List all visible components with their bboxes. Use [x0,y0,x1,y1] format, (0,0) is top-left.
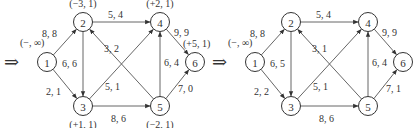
node-mark-1: (−, ∞) [20,37,44,49]
node-label: 3 [288,101,294,113]
node-3: 3 [282,97,301,116]
edge-label-3-4: 5, 1 [313,81,328,92]
edge-label-5-2: 3, 2 [104,43,119,54]
node-4: 4(+2, 1) [146,0,173,32]
node-5: 5 [359,97,378,116]
edge-label-5-4: 6, 4 [164,57,179,68]
edge-label-2-4: 5, 4 [316,9,331,20]
node-1: 1(−, ∞) [228,37,265,72]
node-6: 6 [394,53,413,72]
node-label: 1 [44,57,50,69]
node-label: 5 [157,101,163,113]
node-3: 3(+1, 1) [69,97,96,129]
node-label: 2 [288,17,294,29]
node-label: 3 [80,101,86,113]
node-1: 1(−, ∞) [20,37,57,72]
node-2: 2 [282,13,301,32]
edge-label-2-3: 6, 5 [270,58,285,69]
node-mark-2: (−3, 1) [69,0,96,10]
node-label: 6 [192,57,198,69]
node-label: 4 [157,17,163,29]
edge-label-2-3: 6, 6 [62,58,77,69]
node-label: 5 [365,101,371,113]
node-4: 4 [359,13,378,32]
node-2: 2(−3, 1) [69,0,96,32]
entry-arrow-icon: ⇒ [212,52,227,72]
node-mark-3: (+1, 1) [69,119,96,128]
edge-label-3-5: 8, 6 [111,113,126,124]
node-6: 6(+5, 1) [183,38,210,72]
graph-before: ⇒8, 82, 16, 65, 43, 25, 18, 66, 49, 97, … [4,0,210,128]
node-label: 2 [80,17,86,29]
node-mark-4: (+2, 1) [146,0,173,10]
edge-label-3-5: 8, 6 [319,113,334,124]
node-mark-1: (−, ∞) [228,37,252,49]
node-label: 1 [252,57,258,69]
node-5: 5(−2, 1) [146,97,173,129]
edge-label-5-2: 3, 1 [312,43,327,54]
edge-label-1-3: 2, 1 [46,86,61,97]
node-label: 4 [365,17,371,29]
node-mark-5: (−2, 1) [146,119,173,128]
edge-label-5-6: 7, 0 [178,83,193,94]
edge-label-5-6: 7, 1 [386,83,401,94]
edge-label-3-4: 5, 1 [105,81,120,92]
graph-after: ⇒8, 82, 26, 55, 43, 15, 18, 66, 49, 97, … [212,9,413,124]
node-mark-6: (+5, 1) [183,38,210,50]
edge-label-4-6: 9, 9 [174,27,189,38]
flow-network-diagram: ⇒8, 82, 16, 65, 43, 25, 18, 66, 49, 97, … [0,0,416,128]
edge-label-1-3: 2, 2 [254,86,269,97]
edge-label-4-6: 9, 9 [382,27,397,38]
entry-arrow-icon: ⇒ [4,52,19,72]
node-label: 6 [400,57,406,69]
edge-label-5-4: 6, 4 [372,57,387,68]
edge-label-2-4: 5, 4 [108,9,123,20]
